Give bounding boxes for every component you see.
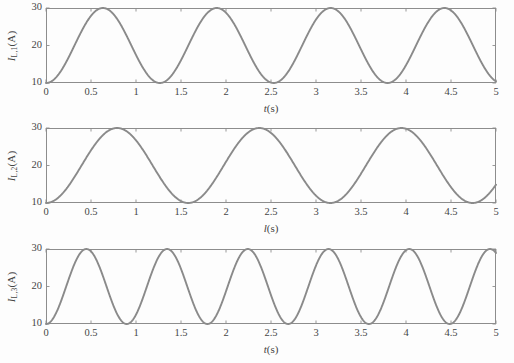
x-tick-label: 1.5 (161, 86, 201, 97)
x-tick-label: 2 (206, 327, 246, 338)
x-tick-label: 1 (116, 327, 156, 338)
x-tick-label: 3.5 (341, 86, 381, 97)
x-axis-unit: (s) (267, 222, 279, 234)
x-tick-label: 3.5 (341, 327, 381, 338)
x-axis-label-il2: l(s) (231, 222, 311, 234)
x-tick-label: 2.5 (251, 86, 291, 97)
y-tick-label: 30 (10, 242, 42, 253)
y-tick-label: 30 (10, 121, 42, 132)
x-tick-label: 1.5 (161, 206, 201, 217)
y-tick-label: 10 (10, 317, 42, 328)
x-tick-label: 4.5 (431, 206, 471, 217)
x-tick-label: 0 (26, 206, 66, 217)
x-tick-label: 0.5 (71, 206, 111, 217)
y-tick-label: 20 (10, 159, 42, 170)
x-tick-label: 2 (206, 206, 246, 217)
subplot-il1: IL,1(A) t(s) 00.511.522.533.544.55102030 (0, 0, 514, 120)
x-tick-label: 3 (296, 206, 336, 217)
x-tick-label: 0 (26, 86, 66, 97)
subplot-il3: IL,3(A) t(s) 00.511.522.533.544.55102030 (0, 241, 514, 363)
subplot-il2: IL,2(A) l(s) 00.511.522.533.544.55102030 (0, 120, 514, 241)
x-tick-label: 1.5 (161, 327, 201, 338)
x-tick-label: 4 (386, 206, 426, 217)
figure-container: IL,1(A) t(s) 00.511.522.533.544.55102030… (0, 0, 514, 363)
x-tick-label: 3.5 (341, 206, 381, 217)
x-axis-unit: (s) (267, 102, 279, 114)
x-axis-unit: (s) (267, 343, 279, 355)
x-tick-label: 5 (476, 206, 514, 217)
x-tick-label: 2 (206, 86, 246, 97)
y-tick-label: 10 (10, 196, 42, 207)
x-tick-label: 3 (296, 86, 336, 97)
x-tick-label: 5 (476, 86, 514, 97)
x-tick-label: 4 (386, 327, 426, 338)
x-axis-label-il3: t(s) (231, 343, 311, 355)
x-axis-label-il1: t(s) (231, 102, 311, 114)
x-tick-label: 5 (476, 327, 514, 338)
x-tick-label: 2.5 (251, 206, 291, 217)
waveform-curve (46, 8, 496, 83)
x-tick-label: 1 (116, 86, 156, 97)
x-tick-label: 0 (26, 327, 66, 338)
y-tick-label: 20 (10, 280, 42, 291)
x-tick-label: 0.5 (71, 327, 111, 338)
x-tick-label: 4 (386, 86, 426, 97)
y-tick-label: 10 (10, 76, 42, 87)
x-tick-label: 1 (116, 206, 156, 217)
x-tick-label: 4.5 (431, 327, 471, 338)
x-tick-label: 4.5 (431, 86, 471, 97)
waveform-curve (46, 128, 496, 203)
x-tick-label: 0.5 (71, 86, 111, 97)
x-tick-label: 3 (296, 327, 336, 338)
y-tick-label: 30 (10, 1, 42, 12)
waveform-curve (46, 249, 496, 324)
x-tick-label: 2.5 (251, 327, 291, 338)
y-tick-label: 20 (10, 39, 42, 50)
